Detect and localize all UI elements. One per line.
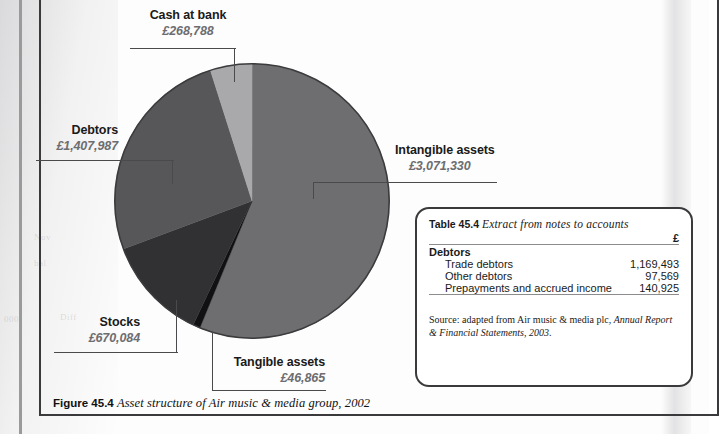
leader-intangible-vertical bbox=[313, 182, 314, 199]
table-cell-name: Other debtors bbox=[429, 270, 620, 282]
leader-debtors-vertical bbox=[172, 160, 173, 184]
callout-cash-at-bank-value: £268,788 bbox=[118, 23, 258, 39]
table-row: Trade debtors 1,169,493 bbox=[429, 258, 679, 270]
table-title-text: Extract from notes to accounts bbox=[482, 218, 629, 230]
leader-debtors-horizontal bbox=[36, 160, 174, 161]
callout-stocks-value: £670,084 bbox=[0, 330, 140, 346]
callout-tangible-assets-label: Tangible assets bbox=[190, 355, 325, 370]
callout-tangible-assets: Tangible assets £46,865 bbox=[190, 355, 325, 386]
callout-tangible-assets-value: £46,865 bbox=[190, 370, 325, 386]
table-source-prefix: Source: adapted from Air music & media p… bbox=[429, 314, 611, 325]
callout-cash-at-bank: Cash at bank £268,788 bbox=[118, 8, 258, 39]
figure-caption: Figure 45.4 Asset structure of Air music… bbox=[53, 396, 370, 411]
callout-debtors: Debtors £1,407,987 bbox=[0, 123, 118, 154]
callout-cash-at-bank-label: Cash at bank bbox=[118, 8, 258, 23]
table-cell-name: Prepayments and accrued income bbox=[429, 282, 620, 295]
leader-stocks-horizontal bbox=[54, 352, 178, 353]
table-group-heading: Debtors bbox=[429, 246, 679, 258]
table-row: Prepayments and accrued income 140,925 bbox=[429, 282, 679, 295]
table-currency-symbol: £ bbox=[429, 232, 679, 245]
table-cell-amount: 1,169,493 bbox=[620, 258, 679, 270]
leader-cash-at-bank-vertical bbox=[234, 48, 235, 82]
callout-debtors-label: Debtors bbox=[0, 123, 118, 138]
callout-intangible-assets-label: Intangible assets bbox=[395, 143, 585, 158]
table-source-note: Source: adapted from Air music & media p… bbox=[429, 313, 679, 339]
leader-intangible-horizontal bbox=[313, 182, 497, 183]
notes-table-card: Table 45.4 Extract from notes to account… bbox=[415, 207, 693, 387]
leader-cash-at-bank-horizontal bbox=[130, 48, 236, 49]
table-source-suffix: . bbox=[549, 327, 552, 338]
table-rule-bottom bbox=[429, 295, 679, 306]
leader-stocks-vertical bbox=[176, 300, 177, 353]
callout-intangible-assets-value: £3,071,330 bbox=[395, 158, 585, 174]
pie-chart-svg bbox=[113, 62, 391, 340]
page-margin-rule bbox=[19, 0, 22, 434]
table-group-heading-row: Debtors bbox=[429, 246, 679, 258]
table-cell-name: Trade debtors bbox=[429, 258, 620, 270]
callout-debtors-value: £1,407,987 bbox=[0, 138, 118, 154]
table-title: Table 45.4 Extract from notes to account… bbox=[429, 218, 679, 230]
pie-chart bbox=[113, 62, 391, 340]
table-cell-amount: 140,925 bbox=[620, 282, 679, 295]
callout-stocks-label: Stocks bbox=[0, 315, 140, 330]
callout-intangible-assets: Intangible assets £3,071,330 bbox=[395, 143, 585, 174]
figure-caption-text: Asset structure of Air music & media gro… bbox=[117, 396, 370, 410]
table-currency-header-row: £ bbox=[429, 232, 679, 245]
leader-tangible-horizontal bbox=[212, 390, 326, 391]
table-number: Table 45.4 bbox=[429, 218, 479, 230]
figure-number: Figure 45.4 bbox=[53, 397, 114, 409]
callout-stocks: Stocks £670,084 bbox=[0, 315, 140, 346]
table-row: Other debtors 97,569 bbox=[429, 270, 679, 282]
leader-tangible-vertical bbox=[212, 331, 213, 391]
table-cell-amount: 97,569 bbox=[620, 270, 679, 282]
notes-table: £ Debtors Trade debtors 1,169,493 Other … bbox=[429, 232, 679, 305]
